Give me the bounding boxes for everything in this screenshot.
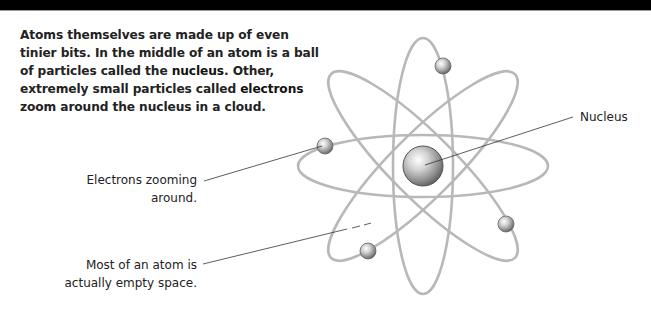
label-electrons-line2: around. [40, 189, 197, 207]
label-electrons: Electrons zooming around. [40, 171, 197, 207]
label-empty-space-line1: Most of an atom is [40, 256, 197, 274]
leader-empty-space-dash [364, 223, 371, 225]
label-empty-space: Most of an atom is actually empty space. [40, 256, 197, 292]
label-nucleus: Nucleus [580, 108, 628, 126]
label-empty-space-line2: actually empty space. [40, 274, 197, 292]
electron [317, 138, 333, 154]
electron [435, 58, 451, 74]
electron [498, 216, 514, 232]
leader-empty-space-dash [352, 226, 360, 228]
electron [360, 243, 376, 259]
label-electrons-line1: Electrons zooming [40, 171, 197, 189]
nucleus [403, 146, 443, 186]
leader-empty-space [203, 229, 347, 264]
